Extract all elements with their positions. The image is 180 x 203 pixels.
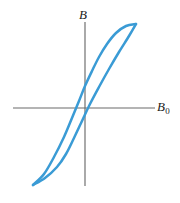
y-axis-label-text: B (79, 7, 87, 22)
x-axis-label-subscript: 0 (165, 106, 170, 116)
figure-canvas (0, 0, 180, 203)
x-axis-label: B0 (157, 100, 169, 113)
y-axis-label: B (79, 8, 87, 21)
x-axis-label-text: B (157, 99, 165, 114)
hysteresis-figure: B B0 (0, 0, 180, 203)
